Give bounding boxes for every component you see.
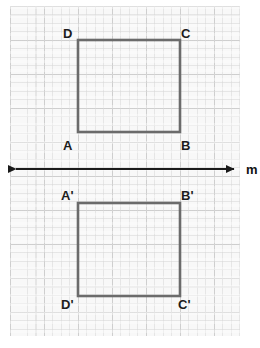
line-label-m: m — [246, 163, 258, 176]
square-a-prime-b-prime-c-prime-d-prime — [78, 203, 180, 296]
vertex-label-b: B — [181, 139, 190, 152]
vertex-label-c-prime: C' — [178, 298, 190, 311]
square-abcd — [78, 40, 180, 132]
vertex-label-b-prime: B' — [181, 189, 193, 202]
figures-layer — [0, 0, 260, 348]
vertex-label-d-prime: D' — [61, 298, 73, 311]
vertex-label-a: A — [63, 139, 72, 152]
geometry-diagram: D C A B A' B' D' C' m — [0, 0, 260, 348]
vertex-label-c: C — [181, 27, 190, 40]
vertex-label-a-prime: A' — [61, 189, 73, 202]
vertex-label-d: D — [63, 27, 72, 40]
